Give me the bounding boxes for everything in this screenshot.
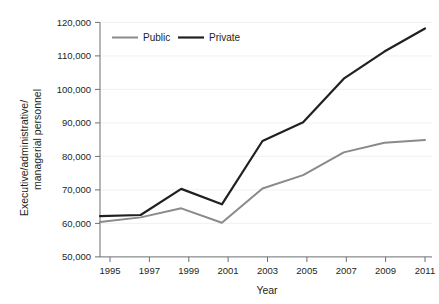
x-axis-tick-labels: 1995 1997 1999 2001 2003 2005 2007 2009 … xyxy=(99,265,435,276)
x-tick-label: 1995 xyxy=(99,265,120,276)
y-axis-title-line2: managerial personnel xyxy=(31,89,43,190)
y-tick-label: 80,000 xyxy=(62,151,91,162)
x-tick-label: 2003 xyxy=(257,265,278,276)
y-tick-label: 100,000 xyxy=(57,84,91,95)
x-tick-label: 2005 xyxy=(296,265,317,276)
x-tick-label: 2011 xyxy=(415,265,435,276)
x-tick-label: 1997 xyxy=(139,265,160,276)
x-tick-label: 1999 xyxy=(178,265,199,276)
chart-figure: 120,000 110,000 100,000 90,000 80,000 70… xyxy=(0,0,439,304)
x-tick-label: 2001 xyxy=(218,265,239,276)
y-tick-label: 50,000 xyxy=(62,251,91,262)
y-tick-label: 110,000 xyxy=(57,50,91,61)
y-tick-label: 70,000 xyxy=(62,184,91,195)
x-tick-label: 2007 xyxy=(336,265,357,276)
line-chart: 120,000 110,000 100,000 90,000 80,000 70… xyxy=(0,0,439,304)
x-tick-label: 2009 xyxy=(375,265,396,276)
legend-label-private: Private xyxy=(209,32,241,43)
y-axis-title-line1: Executive/administrative/ xyxy=(18,100,30,216)
y-tick-label: 120,000 xyxy=(57,17,91,28)
y-tick-label: 90,000 xyxy=(62,117,91,128)
legend-label-public: Public xyxy=(143,32,170,43)
x-axis-title: Year xyxy=(256,284,278,296)
y-tick-label: 60,000 xyxy=(62,218,91,229)
